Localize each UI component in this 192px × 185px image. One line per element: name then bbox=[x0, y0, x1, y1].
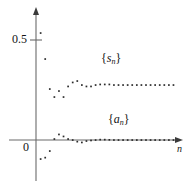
data-point bbox=[113, 84, 115, 86]
data-point bbox=[118, 139, 120, 141]
data-point bbox=[40, 32, 42, 34]
data-point bbox=[67, 138, 69, 140]
x-axis-name-label: n bbox=[177, 144, 182, 154]
data-point bbox=[150, 84, 152, 86]
data-point bbox=[81, 142, 83, 144]
data-point bbox=[159, 139, 161, 141]
data-point bbox=[58, 90, 60, 92]
data-point bbox=[168, 139, 170, 141]
data-point bbox=[72, 139, 74, 141]
data-point bbox=[76, 80, 78, 82]
data-point bbox=[163, 84, 165, 86]
data-point bbox=[104, 84, 106, 86]
data-point bbox=[154, 84, 156, 86]
data-point bbox=[159, 84, 161, 86]
y-axis-tick-label-half: 0.5 bbox=[12, 33, 27, 45]
data-point bbox=[154, 139, 156, 141]
data-point bbox=[81, 84, 83, 86]
data-point bbox=[72, 82, 74, 84]
data-point bbox=[99, 84, 101, 86]
data-point bbox=[44, 157, 46, 159]
data-point bbox=[173, 139, 175, 141]
data-point bbox=[136, 84, 138, 86]
data-point bbox=[104, 139, 106, 141]
plot-canvas bbox=[0, 0, 192, 185]
data-point bbox=[113, 139, 115, 141]
data-point bbox=[49, 88, 51, 90]
data-point bbox=[122, 139, 124, 141]
series-label-sn: {sn} bbox=[101, 52, 121, 66]
axes-group bbox=[9, 7, 183, 181]
data-point bbox=[118, 84, 120, 86]
data-point bbox=[150, 139, 152, 141]
series-an-points bbox=[40, 134, 175, 160]
data-point bbox=[163, 139, 165, 141]
an-brace-close: } bbox=[124, 112, 130, 126]
data-point bbox=[122, 84, 124, 86]
data-point bbox=[76, 141, 78, 143]
y-axis-arrow-icon bbox=[33, 7, 39, 15]
data-point bbox=[145, 84, 147, 86]
data-point bbox=[90, 140, 92, 142]
data-point bbox=[58, 134, 60, 136]
data-point bbox=[141, 139, 143, 141]
data-point bbox=[127, 139, 129, 141]
data-point bbox=[67, 86, 69, 88]
data-point bbox=[86, 86, 88, 88]
series-label-an: {an} bbox=[108, 113, 130, 127]
data-point bbox=[44, 58, 46, 60]
data-point bbox=[63, 136, 65, 138]
data-point bbox=[131, 139, 133, 141]
data-point bbox=[145, 139, 147, 141]
y-axis-tick-label-zero: 0 bbox=[23, 141, 29, 153]
data-point bbox=[40, 158, 42, 160]
data-point bbox=[86, 140, 88, 142]
data-point bbox=[141, 84, 143, 86]
data-point bbox=[54, 96, 56, 98]
data-point bbox=[173, 84, 175, 86]
data-point bbox=[63, 96, 65, 98]
data-point bbox=[49, 150, 51, 152]
sn-brace-close: } bbox=[115, 51, 121, 65]
data-point bbox=[54, 138, 56, 140]
data-point bbox=[99, 139, 101, 141]
data-point bbox=[136, 139, 138, 141]
data-point bbox=[95, 84, 97, 86]
data-point bbox=[127, 84, 129, 86]
scatter-plot-figure: 0.5 0 n {sn} {an} bbox=[0, 0, 192, 185]
data-point bbox=[168, 84, 170, 86]
data-point bbox=[95, 139, 97, 141]
data-point bbox=[90, 86, 92, 88]
data-point bbox=[108, 84, 110, 86]
data-point bbox=[108, 139, 110, 141]
data-point bbox=[131, 84, 133, 86]
